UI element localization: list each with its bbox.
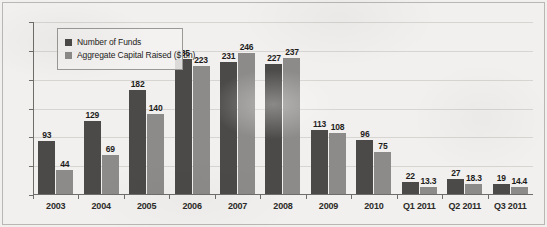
bar-value-label: 182 xyxy=(131,79,145,89)
bar: 246 xyxy=(238,53,255,195)
bar: 231 xyxy=(220,62,237,195)
x-tick-mark xyxy=(306,195,307,199)
bar: 182 xyxy=(129,90,146,195)
x-tick-label: 2004 xyxy=(92,201,111,211)
y-axis-line xyxy=(33,22,34,195)
bar: 96 xyxy=(356,140,373,195)
chart-legend: Number of FundsAggregate Capital Raised … xyxy=(57,28,183,70)
bar-group: 96752010 xyxy=(351,22,396,195)
bar-value-label: 96 xyxy=(360,129,369,139)
x-tick-label: 2006 xyxy=(182,201,201,211)
legend-item[interactable]: Aggregate Capital Raised ($ bn) xyxy=(65,50,175,60)
bar-value-label: 27 xyxy=(451,168,460,178)
bar-value-label: 231 xyxy=(222,51,236,61)
bar: 108 xyxy=(329,133,346,195)
bar-value-label: 129 xyxy=(85,110,99,120)
x-tick-mark xyxy=(33,195,34,199)
bar: 140 xyxy=(147,114,164,195)
bar-value-label: 246 xyxy=(240,42,254,52)
bar: 75 xyxy=(374,152,391,195)
bar-value-label: 113 xyxy=(313,119,326,129)
x-tick-label: 2010 xyxy=(364,201,383,211)
legend-swatch-icon xyxy=(65,39,72,46)
x-tick-label: 2008 xyxy=(273,201,292,211)
bar-value-label: 69 xyxy=(106,144,115,154)
x-tick-label: 2005 xyxy=(137,201,156,211)
x-tick-mark xyxy=(488,195,489,199)
bar: 235 xyxy=(175,59,192,195)
x-tick-label: Q3 2011 xyxy=(494,201,527,211)
bar-value-label: 227 xyxy=(267,53,281,63)
bar-value-label: 93 xyxy=(42,130,51,140)
bar: 27 xyxy=(447,179,464,195)
bar-group: 2213.3Q1 2011 xyxy=(397,22,442,195)
legend-swatch-icon xyxy=(65,52,72,59)
bar-group: 2718.3Q2 2011 xyxy=(442,22,487,195)
bar-group: 2272372008 xyxy=(260,22,305,195)
bar-value-label: 19 xyxy=(497,173,506,183)
bar-value-label: 223 xyxy=(194,55,208,65)
bar-group: 1914.4Q3 2011 xyxy=(488,22,533,195)
bar: 69 xyxy=(102,155,119,195)
x-tick-label: 2009 xyxy=(319,201,338,211)
x-axis-line xyxy=(33,194,533,195)
x-tick-label: Q2 2011 xyxy=(448,201,481,211)
x-tick-mark xyxy=(169,195,170,199)
x-tick-mark xyxy=(260,195,261,199)
x-tick-label: 2003 xyxy=(46,201,65,211)
x-tick-mark xyxy=(397,195,398,199)
bar-chart: 050100150200250300 934420031296920041821… xyxy=(0,0,547,227)
bar: 237 xyxy=(283,58,300,195)
bar: 227 xyxy=(265,64,282,195)
x-tick-mark xyxy=(78,195,79,199)
bar-value-label: 108 xyxy=(331,122,345,132)
x-tick-mark xyxy=(124,195,125,199)
bar-group: 1131082009 xyxy=(306,22,351,195)
bar: 223 xyxy=(193,66,210,195)
legend-item[interactable]: Number of Funds xyxy=(65,37,175,47)
bar-value-label: 237 xyxy=(285,47,299,57)
bar: 129 xyxy=(84,121,101,195)
bar-value-label: 75 xyxy=(378,141,387,151)
x-tick-label: Q1 2011 xyxy=(403,201,436,211)
x-tick-mark xyxy=(215,195,216,199)
bar-value-label: 13.3 xyxy=(420,176,436,186)
x-tick-mark xyxy=(351,195,352,199)
legend-label: Number of Funds xyxy=(77,37,141,47)
bar-value-label: 14.4 xyxy=(511,176,527,186)
bar: 93 xyxy=(38,141,55,195)
bar-value-label: 140 xyxy=(149,103,163,113)
bar-value-label: 22 xyxy=(406,171,415,181)
bar: 113 xyxy=(311,130,328,195)
legend-label: Aggregate Capital Raised ($ bn) xyxy=(77,50,195,60)
x-tick-label: 2007 xyxy=(228,201,247,211)
bar: 44 xyxy=(56,170,73,195)
bar-value-label: 18.3 xyxy=(466,173,482,183)
bar-value-label: 44 xyxy=(60,159,69,169)
x-tick-mark xyxy=(442,195,443,199)
bar-group: 2312462007 xyxy=(215,22,260,195)
